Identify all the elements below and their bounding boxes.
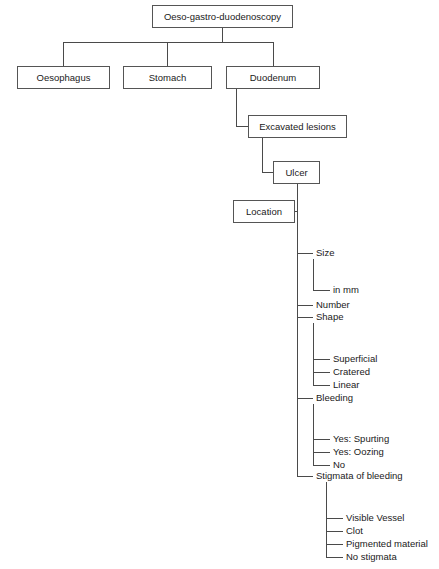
connector-tick-clot	[326, 531, 343, 532]
connector-shape-substem	[313, 323, 314, 385]
connector-root-stem	[222, 28, 223, 42]
connector-lesion-to-ulcer-vertical	[262, 138, 263, 172]
node-label: Ulcer	[285, 168, 307, 178]
node-location[interactable]: Location	[233, 200, 295, 223]
connector-tick-visible-vessel	[326, 518, 343, 519]
leaf-bleeding[interactable]: Bleeding	[316, 392, 353, 404]
node-label: Oeso-gastro-duodenoscopy	[164, 12, 281, 22]
leaf-no-stigmata[interactable]: No stigmata	[346, 551, 397, 563]
endoscopy-classification-diagram: Oeso-gastro-duodenoscopy Oesophagus Stom…	[0, 0, 439, 569]
connector-drop-duodenum	[273, 42, 274, 66]
connector-tick-stigmata-of-bleeding	[297, 476, 313, 477]
connector-ulcer-spine	[297, 184, 298, 476]
connector-tick-yes-spurting	[313, 439, 330, 440]
leaf-clot[interactable]: Clot	[346, 525, 363, 537]
connector-tick-no	[313, 465, 330, 466]
leaf-number[interactable]: Number	[316, 299, 350, 311]
connector-spine-to-location	[295, 211, 298, 212]
leaf-shape[interactable]: Shape	[316, 311, 343, 323]
connector-bleeding-substem	[313, 404, 314, 465]
connector-tick-shape	[297, 317, 313, 318]
leaf-linear[interactable]: Linear	[333, 379, 359, 391]
leaf-pigmented-material[interactable]: Pigmented material	[346, 538, 428, 550]
leaf-cratered[interactable]: Cratered	[333, 366, 370, 378]
node-excavated-lesions[interactable]: Excavated lesions	[248, 115, 347, 138]
connector-stigmata-substem	[326, 482, 327, 557]
node-stomach[interactable]: Stomach	[123, 66, 212, 89]
node-duodenum[interactable]: Duodenum	[226, 66, 320, 89]
connector-duodenum-to-lesion-vertical	[236, 89, 237, 126]
leaf-in-mm[interactable]: in mm	[333, 284, 359, 296]
node-ulcer[interactable]: Ulcer	[273, 161, 320, 184]
leaf-yes-oozing[interactable]: Yes: Oozing	[333, 446, 384, 458]
connector-size-substem	[313, 259, 314, 290]
connector-tick-no-stigmata	[326, 557, 343, 558]
connector-drop-stomach	[167, 42, 168, 66]
connector-tick-bleeding	[297, 398, 313, 399]
connector-tick-in-mm	[313, 290, 330, 291]
node-oeso-gastro-duodenoscopy[interactable]: Oeso-gastro-duodenoscopy	[152, 5, 293, 28]
connector-tick-number	[297, 305, 313, 306]
node-label: Duodenum	[250, 73, 296, 83]
connector-tick-cratered	[313, 372, 330, 373]
node-label: Oesophagus	[37, 73, 91, 83]
connector-tick-linear	[313, 385, 330, 386]
leaf-yes-spurting[interactable]: Yes: Spurting	[333, 433, 389, 445]
node-label: Location	[246, 207, 282, 217]
leaf-size[interactable]: Size	[316, 247, 334, 259]
connector-tick-pigmented-material	[326, 544, 343, 545]
connector-tick-yes-oozing	[313, 452, 330, 453]
connector-tick-size	[297, 253, 313, 254]
node-label: Excavated lesions	[259, 122, 336, 132]
leaf-stigmata-of-bleeding[interactable]: Stigmata of bleeding	[316, 470, 403, 482]
node-oesophagus[interactable]: Oesophagus	[17, 66, 110, 89]
leaf-superficial[interactable]: Superficial	[333, 353, 377, 365]
leaf-visible-vessel[interactable]: Visible Vessel	[346, 512, 404, 524]
connector-drop-oesophagus	[63, 42, 64, 66]
node-label: Stomach	[149, 73, 187, 83]
connector-tick-superficial	[313, 359, 330, 360]
connector-organ-bus	[63, 42, 273, 43]
